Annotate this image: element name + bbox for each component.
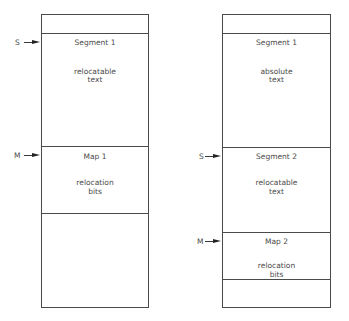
right-map2-title: Map 2 (222, 237, 331, 246)
left-s-pointer-label: S (15, 38, 20, 47)
right-divider-segment1 (222, 33, 331, 34)
left-divider-segment1 (41, 33, 149, 34)
right-segment2-body-line1: relocatable (222, 178, 331, 187)
left-divider-map1-end (41, 213, 149, 214)
left-s-arrowhead-icon (32, 40, 40, 44)
right-s-pointer-label: S (199, 152, 204, 161)
right-divider-map2 (222, 232, 331, 233)
right-m-arrowhead-icon (213, 239, 221, 243)
right-m-pointer-label: M (197, 237, 203, 246)
right-divider-segment2 (222, 147, 331, 148)
left-divider-map1 (41, 146, 149, 147)
right-map2-body-line1: relocation (222, 261, 331, 270)
left-map1-title: Map 1 (41, 152, 149, 161)
right-s-arrowhead-icon (213, 154, 221, 158)
left-map1-body-line2: bits (41, 187, 149, 196)
right-segment2-body-line2: text (222, 187, 331, 196)
left-segment1-body-line2: text (41, 75, 149, 84)
left-m-arrowhead-icon (32, 153, 40, 157)
right-segment1-body-line2: text (222, 75, 331, 84)
right-divider-map2-end (222, 279, 331, 280)
right-segment1-title: Segment 1 (222, 38, 331, 47)
left-map1-body-line1: relocation (41, 178, 149, 187)
right-map2-body-line2: bits (222, 270, 331, 279)
left-memory-box (41, 14, 149, 308)
left-segment1-title: Segment 1 (41, 38, 149, 47)
right-segment2-title: Segment 2 (222, 152, 331, 161)
left-m-pointer-label: M (14, 151, 20, 160)
